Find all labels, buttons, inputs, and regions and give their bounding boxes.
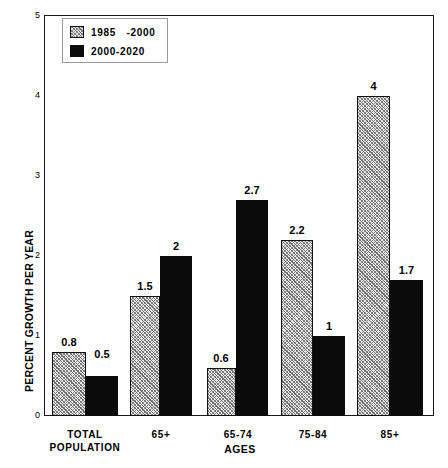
bar-value-g0s0: 0.8 (52, 336, 86, 348)
bar-chart: PERCENT GROWTH PER YEAR 5 4 3 2 1 0 0.8 … (0, 0, 448, 468)
legend-label-2000-2020: 2000-2020 (91, 46, 145, 57)
bar-value-g4s1: 1.7 (390, 264, 423, 276)
legend-swatch-hatched-icon (70, 26, 84, 38)
bar-value-g1s1: 2 (160, 240, 192, 252)
bar-value-g1s0: 1.5 (129, 280, 161, 292)
legend-item-1985-2000[interactable]: 1985 -2000 (70, 25, 156, 39)
bar-75-84-1985-2000[interactable] (281, 240, 313, 416)
x-category-75-84: 75-84 (282, 428, 344, 441)
y-tick-label-2: 2 (20, 250, 40, 260)
bar-65-74-1985-2000[interactable] (207, 368, 236, 416)
bar-value-g4s0: 4 (357, 80, 390, 92)
bar-value-g2s1: 2.7 (236, 184, 268, 196)
y-tick-label-5: 5 (20, 10, 40, 20)
x-axis-title: AGES (200, 443, 280, 455)
bar-value-g0s1: 0.5 (86, 348, 118, 360)
bar-85plus-1985-2000[interactable] (357, 96, 390, 416)
legend-swatch-solid-icon (70, 45, 84, 57)
legend: 1985 -2000 2000-2020 (62, 18, 168, 63)
bar-65plus-2000-2020[interactable] (160, 256, 192, 416)
y-tick-label-4: 4 (20, 90, 40, 100)
x-category-total-population: TOTAL POPULATION (35, 428, 135, 454)
x-category-85plus: 85+ (360, 428, 420, 441)
y-tick-label-1: 1 (20, 330, 40, 340)
bar-value-g3s1: 1 (313, 320, 345, 332)
bar-total-population-2000-2020[interactable] (86, 376, 118, 416)
bar-85plus-2000-2020[interactable] (390, 280, 423, 416)
bar-value-g2s0: 0.6 (205, 352, 237, 364)
bar-value-g3s0: 2.2 (281, 224, 313, 236)
x-category-65plus: 65+ (131, 428, 191, 441)
y-axis-title: PERCENT GROWTH PER YEAR (20, 162, 38, 392)
bar-total-population-1985-2000[interactable] (52, 352, 86, 416)
bar-75-84-2000-2020[interactable] (313, 336, 345, 416)
x-category-65-74: 65-74 (207, 428, 269, 441)
y-tick-label-0: 0 (20, 410, 40, 420)
bar-65plus-1985-2000[interactable] (130, 296, 160, 416)
legend-label-1985-2000: 1985 -2000 (91, 27, 156, 38)
bar-65-74-2000-2020[interactable] (236, 200, 268, 416)
y-tick-label-3: 3 (20, 170, 40, 180)
legend-item-2000-2020[interactable]: 2000-2020 (70, 44, 145, 58)
